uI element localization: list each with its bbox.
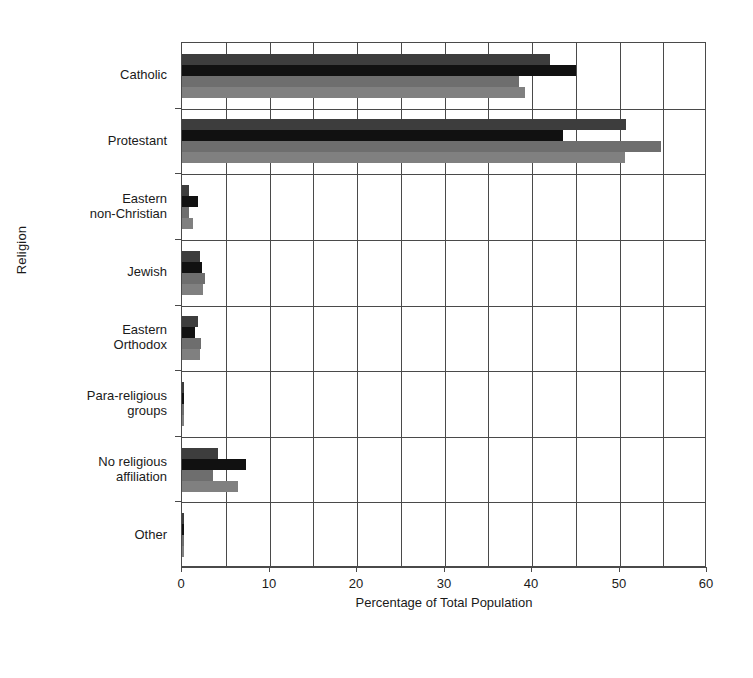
x-axis-tick-label: 10 bbox=[249, 576, 289, 591]
bar bbox=[182, 196, 198, 207]
x-axis-tick bbox=[181, 567, 182, 572]
y-axis-tick bbox=[175, 173, 181, 174]
x-axis-title: Percentage of Total Population bbox=[181, 595, 707, 610]
y-axis-tick bbox=[175, 370, 181, 371]
bar bbox=[182, 382, 184, 393]
category-label: Other bbox=[32, 527, 167, 542]
category-label: Para-religious groups bbox=[32, 388, 167, 418]
bar-group bbox=[182, 382, 706, 426]
bar bbox=[182, 262, 202, 273]
religion-percentage-bar-chart: Religion CatholicProtestantEastern non-C… bbox=[0, 0, 753, 678]
x-axis-tick bbox=[706, 567, 707, 572]
bar bbox=[182, 54, 550, 65]
y-axis-tick bbox=[175, 239, 181, 240]
plot-area bbox=[181, 42, 706, 567]
x-axis-tick-label: 50 bbox=[599, 576, 639, 591]
bar bbox=[182, 393, 184, 404]
bar bbox=[182, 327, 195, 338]
bar bbox=[182, 481, 238, 492]
bar bbox=[182, 459, 246, 470]
bar bbox=[182, 185, 189, 196]
y-axis-tick bbox=[175, 108, 181, 109]
bar bbox=[182, 141, 661, 152]
category-label: No religious affiliation bbox=[32, 454, 167, 484]
category-label: Catholic bbox=[32, 67, 167, 82]
bar bbox=[182, 513, 184, 524]
category-separator bbox=[182, 502, 705, 503]
category-separator bbox=[182, 437, 705, 438]
y-axis-tick bbox=[175, 501, 181, 502]
bar-group bbox=[182, 185, 706, 229]
bar bbox=[182, 535, 184, 546]
x-axis-tick-label: 20 bbox=[336, 576, 376, 591]
y-axis-tick bbox=[175, 436, 181, 437]
bar-group bbox=[182, 513, 706, 557]
x-axis-tick bbox=[269, 567, 270, 572]
bar bbox=[182, 218, 193, 229]
bar bbox=[182, 76, 519, 87]
x-axis-tick bbox=[619, 567, 620, 572]
bar-group bbox=[182, 316, 706, 360]
y-axis-line bbox=[181, 42, 182, 568]
bar bbox=[182, 87, 525, 98]
category-separator bbox=[182, 174, 705, 175]
bar bbox=[182, 448, 218, 459]
bar bbox=[182, 316, 198, 327]
bar bbox=[182, 130, 563, 141]
category-label: Eastern non-Christian bbox=[32, 191, 167, 221]
category-label: Eastern Orthodox bbox=[32, 322, 167, 352]
x-axis-tick-label: 60 bbox=[686, 576, 726, 591]
x-axis-tick-label: 40 bbox=[511, 576, 551, 591]
bar bbox=[182, 251, 200, 262]
bar bbox=[182, 546, 184, 557]
bar-group bbox=[182, 448, 706, 492]
bar-group bbox=[182, 119, 706, 163]
bar bbox=[182, 470, 213, 481]
bar bbox=[182, 119, 626, 130]
category-separator bbox=[182, 109, 705, 110]
x-axis-tick bbox=[531, 567, 532, 572]
bar-group bbox=[182, 54, 706, 98]
category-label: Protestant bbox=[32, 133, 167, 148]
y-axis-tick bbox=[175, 305, 181, 306]
bar bbox=[182, 284, 203, 295]
bar bbox=[182, 65, 576, 76]
category-separator bbox=[182, 240, 705, 241]
category-label: Jewish bbox=[32, 264, 167, 279]
category-separator bbox=[182, 306, 705, 307]
x-axis-tick-label: 30 bbox=[424, 576, 464, 591]
bar bbox=[182, 524, 184, 535]
bar bbox=[182, 415, 184, 426]
x-axis-tick bbox=[444, 567, 445, 572]
category-axis-labels: CatholicProtestantEastern non-ChristianJ… bbox=[40, 42, 175, 567]
bar bbox=[182, 273, 205, 284]
y-axis-title: Religion bbox=[14, 190, 29, 310]
bar bbox=[182, 349, 200, 360]
bar bbox=[182, 404, 184, 415]
x-axis-tick-label: 0 bbox=[161, 576, 201, 591]
bar-group bbox=[182, 251, 706, 295]
bar bbox=[182, 152, 625, 163]
bar bbox=[182, 207, 189, 218]
category-separator bbox=[182, 371, 705, 372]
bar bbox=[182, 338, 201, 349]
x-axis-tick bbox=[356, 567, 357, 572]
